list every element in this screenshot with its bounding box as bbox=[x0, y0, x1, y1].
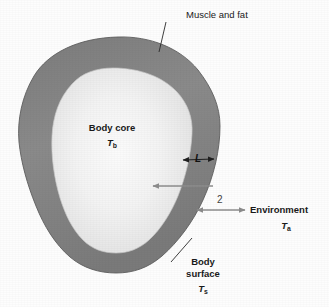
body-surface-label-line2: surface bbox=[175, 268, 231, 279]
environment-label: Environment bbox=[250, 204, 308, 215]
body-surface-symbol-subscript: s bbox=[204, 288, 208, 295]
environment-symbol-subscript: a bbox=[287, 225, 291, 232]
environment-temperature-symbol: Ta bbox=[250, 220, 322, 231]
thickness-label-L: L bbox=[195, 153, 201, 165]
flux-number-label: 2 bbox=[217, 194, 223, 206]
body-surface-temperature-symbol: Ts bbox=[175, 283, 231, 294]
muscle-and-fat-label: Muscle and fat bbox=[186, 9, 248, 20]
body-surface-label-line1: Body bbox=[175, 256, 231, 267]
diagram-canvas: Muscle and fat Body core Tb L 2 Environm… bbox=[0, 0, 329, 307]
diagram-svg bbox=[0, 0, 329, 307]
body-core-symbol-subscript: b bbox=[113, 142, 117, 149]
body-core-symbol-letter: T bbox=[107, 137, 113, 148]
body-core-label: Body core bbox=[74, 122, 150, 133]
body-core-temperature-symbol: Tb bbox=[74, 137, 150, 148]
